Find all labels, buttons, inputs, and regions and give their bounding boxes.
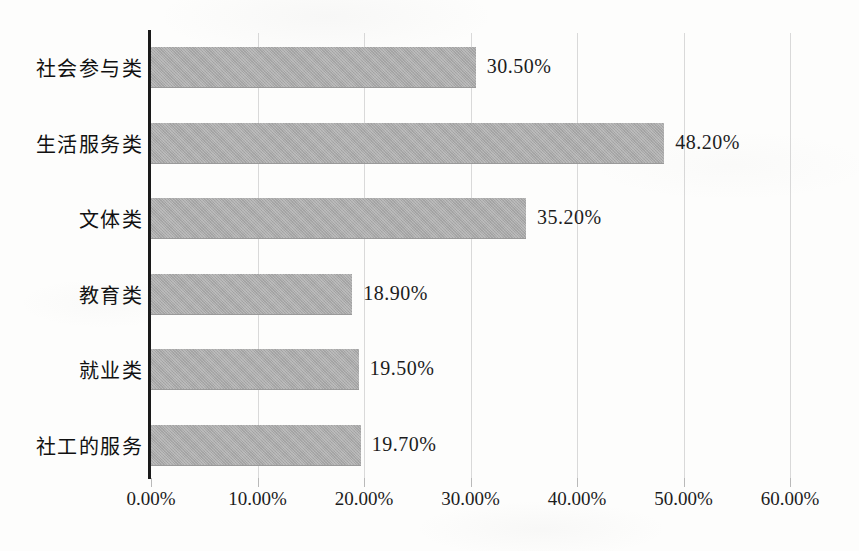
category-label-生活服务类: 生活服务类 [0, 129, 143, 158]
bar-row: 30.50% [151, 47, 790, 87]
bar-文体类[interactable] [151, 198, 526, 239]
category-label-就业类: 就业类 [0, 355, 143, 384]
bar-value-label: 35.20% [537, 206, 602, 229]
gridline-40.00% [577, 33, 578, 478]
bar-value-label: 19.50% [370, 357, 435, 380]
bar-value-label: 19.70% [372, 433, 437, 456]
bar-value-label: 30.50% [487, 55, 552, 78]
x-tick-label-30.00%: 30.00% [411, 488, 531, 510]
bar-社工的服务[interactable] [151, 425, 361, 466]
x-tick-label-60.00%: 60.00% [730, 488, 850, 510]
bar-row: 48.20% [151, 123, 790, 163]
x-tick-mark [790, 478, 791, 487]
gridline-50.00% [684, 33, 685, 478]
gridline-10.00% [258, 33, 259, 478]
bar-row: 19.70% [151, 425, 790, 465]
category-label-社工的服务: 社工的服务 [0, 431, 143, 460]
x-tick-label-0.00%: 0.00% [91, 488, 211, 510]
x-tick-label-40.00%: 40.00% [517, 488, 637, 510]
bar-社会参与类[interactable] [151, 47, 476, 88]
bar-row: 35.20% [151, 198, 790, 238]
category-axis-line [148, 30, 151, 479]
x-tick-label-10.00%: 10.00% [198, 488, 318, 510]
category-label-文体类: 文体类 [0, 204, 143, 233]
bar-value-label: 18.90% [363, 282, 428, 305]
x-tick-mark [577, 478, 578, 487]
bar-生活服务类[interactable] [151, 123, 664, 164]
x-tick-mark [151, 478, 152, 487]
x-tick-mark [684, 478, 685, 487]
x-tick-mark [471, 478, 472, 487]
x-tick-label-50.00%: 50.00% [624, 488, 744, 510]
bar-row: 18.90% [151, 274, 790, 314]
x-tick-mark [258, 478, 259, 487]
x-tick-mark [364, 478, 365, 487]
gridline-30.00% [471, 33, 472, 478]
category-label-教育类: 教育类 [0, 280, 143, 309]
bar-就业类[interactable] [151, 349, 359, 390]
chart-page: 30.50%社会参与类48.20%生活服务类35.20%文体类18.90%教育类… [0, 0, 859, 551]
category-label-社会参与类: 社会参与类 [0, 53, 143, 82]
bar-value-label: 48.20% [675, 131, 740, 154]
bar-row: 19.50% [151, 349, 790, 389]
gridline-20.00% [364, 33, 365, 478]
plot-area [151, 33, 790, 478]
x-tick-label-20.00%: 20.00% [304, 488, 424, 510]
bar-教育类[interactable] [151, 274, 352, 315]
gridline-60.00% [790, 33, 791, 478]
